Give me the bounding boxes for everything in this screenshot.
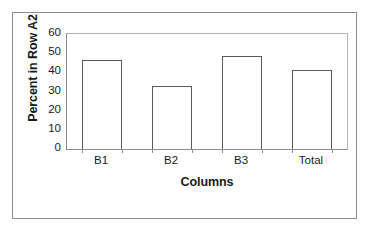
x-axis-tick-mark bbox=[262, 149, 263, 153]
y-axis-tick-label: 30 bbox=[35, 85, 61, 96]
y-axis-tick-label: 60 bbox=[35, 27, 61, 38]
bar bbox=[152, 86, 192, 149]
y-axis-tick-label: 0 bbox=[35, 142, 61, 153]
y-axis-tick-label: 20 bbox=[35, 104, 61, 115]
y-axis-tick-label: 40 bbox=[35, 65, 61, 76]
bars-layer bbox=[67, 34, 347, 149]
y-axis-tick-labels: 0102030405060 bbox=[35, 25, 61, 153]
x-axis-title: Columns bbox=[66, 175, 348, 189]
x-axis-tick-mark bbox=[82, 149, 83, 153]
chart-figure-frame: Percent in Row A2 0102030405060 B1B2B3To… bbox=[12, 12, 357, 219]
x-axis-tick-label: Total bbox=[299, 154, 323, 166]
bar bbox=[222, 56, 262, 149]
x-axis-tick-mark bbox=[122, 149, 123, 153]
x-axis-tick-mark bbox=[222, 149, 223, 153]
plot-area bbox=[66, 33, 348, 150]
x-axis-tick-label: B2 bbox=[164, 154, 178, 166]
bar bbox=[292, 70, 332, 149]
bar bbox=[82, 60, 122, 149]
x-axis-tick-label: B3 bbox=[234, 154, 248, 166]
y-axis-tick-label: 50 bbox=[35, 46, 61, 57]
x-axis-tick-mark bbox=[332, 149, 333, 153]
bar-chart: Percent in Row A2 0102030405060 B1B2B3To… bbox=[13, 13, 356, 218]
x-axis-tick-labels: B1B2B3Total bbox=[66, 154, 348, 170]
x-axis-tick-mark bbox=[292, 149, 293, 153]
y-axis-tick-label: 10 bbox=[35, 123, 61, 134]
x-axis-tick-mark bbox=[192, 149, 193, 153]
x-axis-tick-label: B1 bbox=[94, 154, 108, 166]
x-axis-tick-mark bbox=[152, 149, 153, 153]
